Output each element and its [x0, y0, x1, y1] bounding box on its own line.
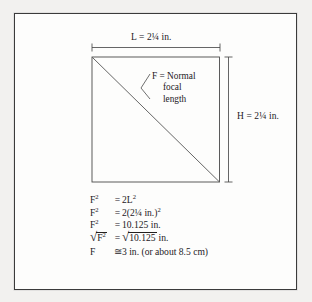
equation-row-radical: √F2 = √10.125 in.: [90, 232, 208, 246]
result-rhs: 3 in. (or about 8.5 cm): [122, 246, 208, 257]
equation-rhs-base: 2L: [122, 194, 133, 205]
radical-rhs: √10.125: [122, 232, 157, 243]
equation-rhs-base: 2(2¼ in.): [122, 207, 157, 218]
equals-sign: =: [113, 194, 122, 205]
equation-rhs-exponent: 2: [133, 193, 136, 200]
approximately-equal-sign: ≅: [113, 246, 122, 257]
height-dimension-label: H = 2¼ in.: [237, 112, 279, 122]
equation-row: F2 = 2(2¼ in.)2: [90, 207, 208, 220]
focal-length-callout: F = Normal focal length: [152, 71, 195, 105]
equals-sign: =: [113, 207, 122, 218]
callout-line-1: F = Normal: [152, 71, 195, 82]
radical-lhs-exponent: 2: [102, 231, 105, 238]
equation-row-result: F ≅ 3 in. (or about 8.5 cm): [90, 246, 208, 259]
radical-rhs-unit: in.: [159, 232, 169, 243]
equals-sign: =: [113, 219, 122, 230]
equation-rhs-exponent: 2: [157, 205, 160, 212]
calculation-block: F2 = 2L2 F2 = 2(2¼ in.)2 F2 = 10.125 in.…: [90, 194, 208, 258]
equation-row: F2 = 2L2: [90, 194, 208, 207]
length-dimension-label: L = 2¼ in.: [131, 33, 172, 43]
equation-rhs: 2L2: [122, 194, 136, 205]
equation-lhs: F2: [90, 194, 113, 205]
equation-lhs-exponent: 2: [95, 218, 98, 225]
callout-line-2: focal: [152, 82, 195, 93]
equals-sign: =: [113, 232, 122, 243]
radical-lhs-radicand: F2: [96, 232, 107, 243]
radical-rhs-radicand: 10.125: [128, 232, 156, 243]
equation-lhs: F2: [90, 207, 113, 218]
equation-lhs-exponent: 2: [95, 193, 98, 200]
radical-lhs: √F2: [90, 232, 113, 243]
equation-rhs: 2(2¼ in.)2: [122, 207, 161, 218]
equation-row: F2 = 10.125 in.: [90, 219, 208, 232]
result-lhs: F: [90, 246, 113, 257]
callout-line-3: length: [152, 94, 195, 105]
equation-lhs-exponent: 2: [95, 205, 98, 212]
figure-root: L = 2¼ in. H = 2¼ in. F = Normal focal l…: [0, 0, 312, 302]
